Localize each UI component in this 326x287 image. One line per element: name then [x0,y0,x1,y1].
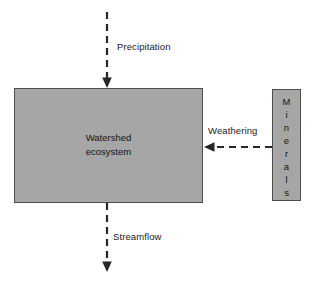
streamflow-arrow [102,203,112,272]
watershed-ecosystem-label: Watershed ecosystem [14,131,203,159]
precipitation-label: Precipitation [117,41,171,53]
minerals-letter-m: M [283,95,291,108]
minerals-letter-a: a [284,160,289,173]
precipitation-arrow [102,12,112,88]
watershed-label-line2: ecosystem [14,145,203,159]
weathering-arrow [204,142,272,152]
weathering-label: Weathering [208,125,257,137]
minerals-letter-e: e [284,134,289,147]
minerals-label: M i n e r a l s [272,95,301,199]
minerals-letter-l: l [285,173,287,186]
minerals-letter-i: i [285,108,287,121]
minerals-letter-n: n [284,121,289,134]
diagram-canvas: Watershed ecosystem M i n e r a l s Prec… [0,0,326,287]
minerals-letter-r: r [285,147,288,160]
minerals-letter-s: s [284,186,289,199]
streamflow-label: Streamflow [113,231,162,243]
watershed-label-line1: Watershed [14,131,203,145]
